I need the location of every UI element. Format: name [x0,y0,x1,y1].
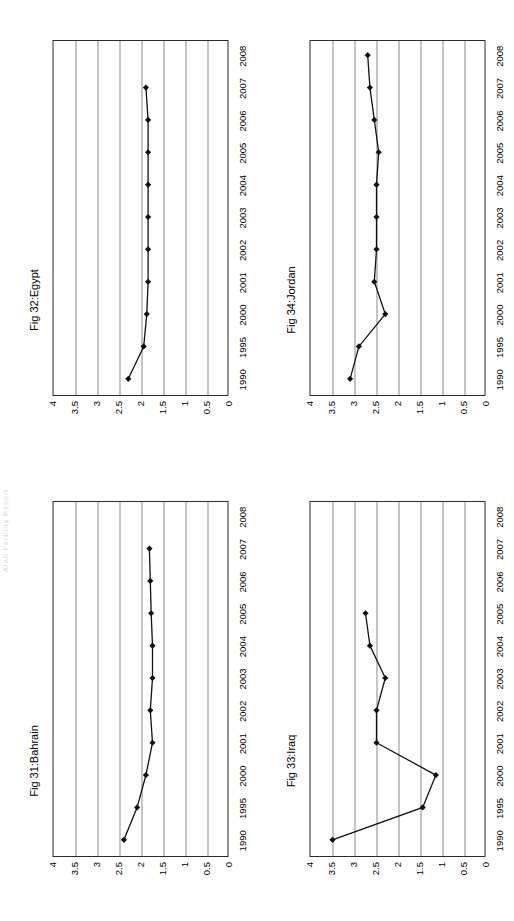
x-tick-label: 1990 [236,369,247,390]
y-tick-label: 3.5 [326,862,337,875]
x-tick-label: 2002 [236,701,247,722]
x-tick-label: 1995 [493,798,504,819]
y-tick-label: 0 [223,401,234,406]
y-axis-bahrain: 43.532.521.510.50 [0,857,257,921]
data-point-marker [149,675,155,681]
report-page: Arab Fertility Report Fig 32:Egypt شكل 3… [0,0,514,921]
x-axis-bahrain: 1990199520002001200220032004200520062007… [232,501,254,857]
plot-area-egypt [52,40,228,396]
data-point-marker [143,311,149,317]
x-tick-label: 1995 [236,337,247,358]
data-point-marker [145,182,151,188]
data-point-marker [373,740,379,746]
x-axis-iraq: 1990199520002001200220032004200520062007… [489,501,511,857]
y-tick-label: 1 [436,401,447,406]
y-tick-label: 0 [480,862,491,867]
y-tick-label: 2.5 [370,401,381,414]
y-tick-label: 2 [392,401,403,406]
data-point-marker [149,740,155,746]
x-tick-label: 2005 [236,143,247,164]
x-tick-label: 2003 [236,207,247,228]
x-tick-label: 2007 [493,78,504,99]
y-axis-jordan: 43.532.521.510.50 [257,396,514,460]
chart-title-en: Fig 34:Jordan [284,200,297,400]
x-tick-label: 2006 [493,110,504,131]
y-tick-label: 3.5 [326,401,337,414]
data-point-marker [347,376,353,382]
x-tick-label: 1990 [236,830,247,851]
y-tick-label: 2 [135,401,146,406]
data-point-marker [148,610,154,616]
series-line-iraq [310,500,486,856]
data-point-marker [142,84,148,90]
y-tick-label: 1.5 [414,862,425,875]
data-point-marker [134,804,140,810]
x-tick-label: 2004 [493,636,504,657]
y-tick-label: 1.5 [157,401,168,414]
data-point-marker [373,707,379,713]
data-point-marker [145,149,151,155]
x-tick-label: 2001 [236,733,247,754]
y-tick-label: 4 [304,862,315,867]
y-tick-label: 2 [135,862,146,867]
y-tick-label: 0.5 [201,401,212,414]
y-tick-label: 0 [480,401,491,406]
x-tick-label: 1990 [493,369,504,390]
x-tick-label: 1990 [493,830,504,851]
x-tick-label: 2002 [236,240,247,261]
data-point-marker [147,578,153,584]
chart-iraq: Fig 33:Iraq شكل 33: العراق 43.532.521.51… [257,461,514,921]
y-tick-label: 1 [179,862,190,867]
data-point-marker [145,279,151,285]
y-tick-label: 1.5 [414,401,425,414]
plot-area-bahrain [52,501,228,857]
y-tick-label: 1.5 [157,862,168,875]
data-point-marker [142,772,148,778]
chart-jordan: Fig 34:Jordan شكل 34: الأردن 43.532.521.… [257,0,514,460]
y-tick-label: 3.5 [69,862,80,875]
x-tick-label: 2005 [493,604,504,625]
data-point-marker [382,675,388,681]
data-point-marker [140,343,146,349]
x-tick-label: 2007 [493,539,504,560]
chart-title-en: Fig 33:Iraq [284,661,297,861]
x-tick-label: 2003 [493,668,504,689]
y-tick-label: 3 [348,862,359,867]
x-tick-label: 2008 [493,46,504,67]
x-tick-label: 2004 [236,636,247,657]
chart-bahrain: Fig 31:Bahrain شكل 31: البحرين 43.532.52… [0,461,257,921]
chart-egypt: Fig 32:Egypt شكل 32: مصر 43.532.521.510.… [0,0,257,460]
y-tick-label: 3 [91,862,102,867]
plot-area-jordan [309,40,485,396]
data-point-marker [145,117,151,123]
y-tick-label: 0.5 [201,862,212,875]
y-tick-label: 0 [223,862,234,867]
x-tick-label: 2001 [493,272,504,293]
x-tick-label: 2000 [493,766,504,787]
data-point-marker [375,149,381,155]
data-point-marker [366,84,372,90]
chart-cell-bahrain: Fig 31:Bahrain شكل 31: البحرين 43.532.52… [0,461,257,921]
x-tick-label: 2003 [493,207,504,228]
x-tick-label: 2006 [236,110,247,131]
y-tick-label: 0.5 [458,862,469,875]
y-tick-label: 2.5 [113,862,124,875]
y-tick-label: 1 [179,401,190,406]
x-tick-label: 2007 [236,78,247,99]
y-tick-label: 2.5 [370,862,381,875]
data-point-marker [364,52,370,58]
y-axis-egypt: 43.532.521.510.50 [0,396,257,460]
y-tick-label: 1 [436,862,447,867]
x-tick-label: 2003 [236,668,247,689]
y-tick-label: 4 [304,401,315,406]
series-line-bahrain [53,500,229,856]
data-point-marker [362,610,368,616]
series-line-egypt [53,39,229,395]
x-tick-label: 2008 [493,507,504,528]
x-tick-label: 2002 [493,240,504,261]
x-tick-label: 2006 [493,571,504,592]
data-point-marker [371,279,377,285]
x-tick-label: 2000 [236,305,247,326]
y-axis-iraq: 43.532.521.510.50 [257,857,514,921]
x-tick-label: 2004 [493,175,504,196]
